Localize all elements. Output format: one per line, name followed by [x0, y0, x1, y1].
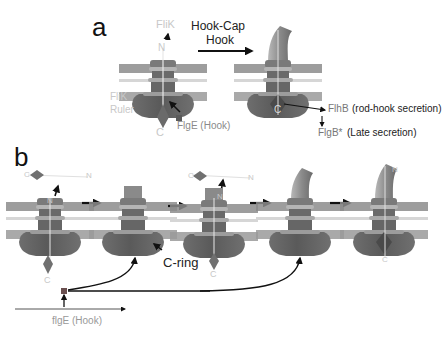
panel-b-stage4-motor [256, 168, 344, 256]
panel-b-ruler3-c: C [188, 172, 194, 180]
flagellar-hook-diagram: a FliK N Hook-Cap Hook FliK Ruler FlgE (… [0, 0, 448, 339]
panel-b-stage1-arrow-up [55, 186, 58, 196]
panel-a-n-label: N [158, 43, 165, 53]
panel-b-gene-label: flgE (Hook) [52, 316, 102, 326]
panel-a-transition-label-1: Hook-Cap [191, 20, 245, 32]
panel-a-flgb-label: FlgB* [318, 128, 342, 138]
panel-a-c-label: C [156, 127, 164, 138]
panel-a-flik-label: FliK [156, 19, 175, 30]
panel-b-flge-square [61, 288, 67, 294]
panel-b-stage5-motor [340, 164, 428, 256]
panel-b-stage1-diamond [43, 255, 53, 274]
panel-b-letter: b [14, 144, 28, 170]
panel-a-flhb-label: FlhB [328, 104, 349, 114]
panel-a-flik-ruler-label-2: Ruler [110, 105, 134, 115]
panel-a-flhb-desc: (rod-hook secretion) [352, 104, 441, 114]
panel-b-cring-label: C-ring [163, 256, 198, 269]
panel-b-ruler1-diamond [30, 170, 44, 180]
panel-b-stage1-n: N [47, 197, 53, 205]
panel-a-flgb-desc: (Late secretion) [347, 128, 416, 138]
panel-a-right-c-label: C [274, 105, 281, 115]
panel-b-stage3-n: N [217, 193, 223, 201]
panel-a-transition-label-2: Hook [206, 34, 234, 46]
panel-a-letter: a [92, 14, 106, 40]
panel-a-flik-ruler-label-1: FliK [110, 92, 127, 102]
panel-b-stage1-c: C [44, 276, 51, 285]
panel-b-stage3-c: C [210, 270, 217, 279]
panel-a-flge-label: FlgE (Hook) [177, 121, 230, 131]
diagram-canvas [0, 0, 448, 339]
panel-b-stage2-motor [89, 186, 177, 256]
panel-b-stage5-c: C [382, 256, 388, 264]
panel-a-flik-arrow [167, 34, 168, 40]
panel-b-ruler1-c: C [24, 171, 30, 179]
panel-b-stage5-n: N [392, 166, 398, 174]
panel-b-ruler3-diamond [193, 171, 207, 181]
panel-b-ruler1-n: N [86, 172, 92, 180]
panel-b-curve-to-stage2 [68, 258, 135, 290]
panel-b-ruler3-n: N [248, 174, 254, 182]
